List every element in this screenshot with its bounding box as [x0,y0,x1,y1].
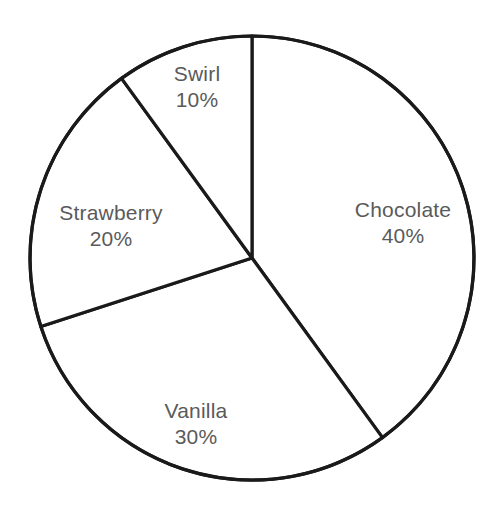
pie-slices-group [30,36,474,480]
pie-label-strawberry: Strawberry20% [59,200,163,252]
pie-chart-svg [0,0,495,509]
pie-label-value-swirl: 10% [174,87,221,113]
pie-label-value-vanilla: 30% [165,424,228,450]
pie-chart-figure: Chocolate40%Vanilla30%Strawberry20%Swirl… [0,0,495,509]
pie-label-name-vanilla: Vanilla [165,398,228,424]
pie-label-value-strawberry: 20% [59,226,163,252]
pie-label-name-swirl: Swirl [174,61,221,87]
pie-label-value-chocolate: 40% [355,223,451,249]
pie-label-name-strawberry: Strawberry [59,200,163,226]
pie-label-vanilla: Vanilla30% [165,398,228,450]
pie-label-name-chocolate: Chocolate [355,197,451,223]
pie-label-swirl: Swirl10% [174,61,221,113]
pie-label-chocolate: Chocolate40% [355,197,451,249]
